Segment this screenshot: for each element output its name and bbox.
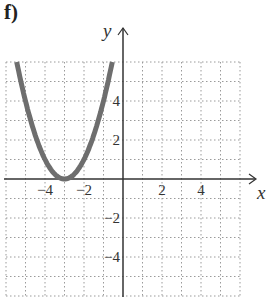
plot-area: −4−22442−2−4 x y	[0, 0, 269, 297]
y-tick-label: 2	[113, 132, 121, 148]
x-tick-label: 4	[197, 182, 205, 198]
parabola-curve	[17, 62, 113, 179]
y-tick-label: 4	[113, 93, 121, 109]
x-tick-label: −2	[76, 182, 92, 198]
x-tick-label: 2	[158, 182, 166, 198]
x-axis-label: x	[256, 182, 266, 203]
x-tick-label: −4	[37, 182, 53, 198]
y-tick-label: −2	[104, 210, 120, 226]
y-axis-label: y	[101, 20, 112, 41]
y-tick-label: −4	[104, 249, 120, 265]
